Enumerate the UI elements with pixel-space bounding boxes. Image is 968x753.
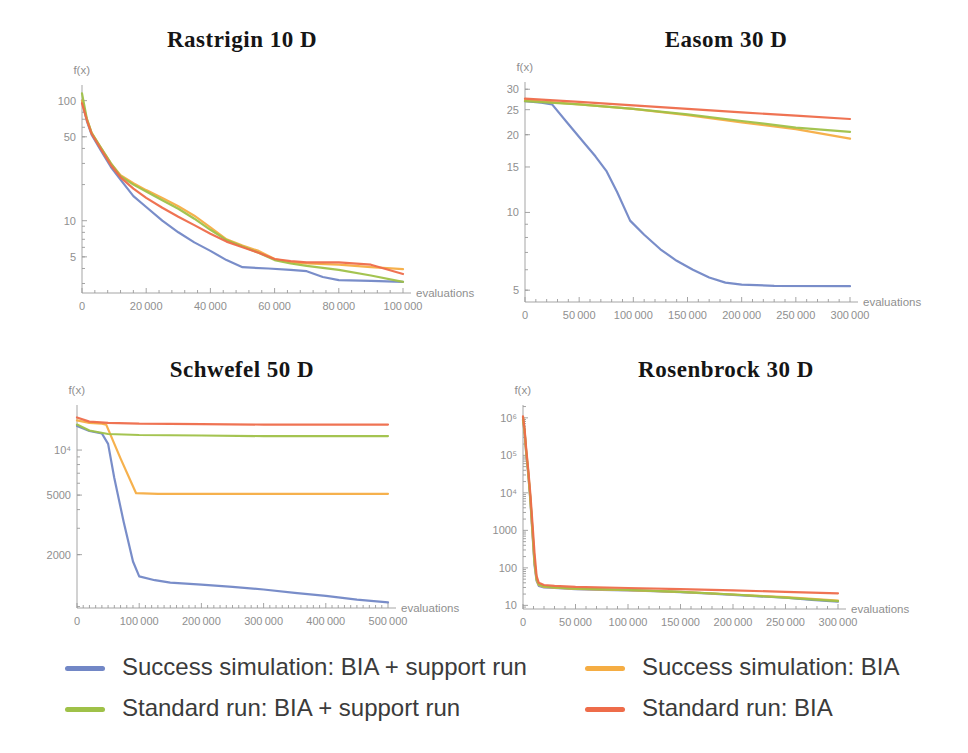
y-tick-label: 15	[507, 161, 519, 173]
y-tick-label: 10⁴	[54, 444, 71, 456]
x-tick-label: 0	[79, 300, 85, 312]
y-tick-label: 5	[513, 284, 519, 296]
y-tick-label: 5	[70, 251, 76, 263]
legend-item-success-bia: Success simulation: BIA	[585, 653, 899, 681]
series-line-green	[82, 93, 403, 281]
y-tick-label: 100	[499, 562, 517, 574]
x-tick-label: 300 000	[831, 309, 870, 321]
legend-item-standard-bia: Standard run: BIA	[585, 694, 899, 722]
series-line-red	[82, 103, 403, 274]
x-tick-label: 50 000	[563, 309, 596, 321]
chart-rastrigin: 10050105020 00040 00060 00080 000100 000…	[0, 0, 484, 330]
series-line-red	[523, 416, 838, 593]
x-tick-label: 40 000	[194, 300, 227, 312]
x-tick-label: 200 000	[722, 309, 761, 321]
legend-label: Standard run: BIA	[642, 694, 833, 722]
legend-swatch-orange	[585, 666, 625, 671]
chart-panel-schwefel: Schwefel 50 D 10⁴500020000100 000200 000…	[0, 330, 484, 652]
x-tick-label: 0	[522, 309, 528, 321]
legend-swatch-blue	[65, 666, 105, 671]
x-axis-label: evaluations	[416, 287, 474, 299]
series-line-green	[523, 417, 838, 601]
x-tick-label: 100 000	[120, 615, 159, 627]
x-tick-label: 100 000	[384, 300, 423, 312]
chart-panel-easom: Easom 30 D 30252015105050 000100 000150 …	[484, 0, 968, 330]
x-tick-label: 0	[520, 616, 526, 628]
chart-rosenbrock: 10⁶10⁵10⁴100010010050 000100 000150 0002…	[484, 330, 968, 652]
x-tick-label: 300 000	[244, 615, 283, 627]
series-line-orange	[525, 100, 850, 139]
x-tick-label: 250 000	[766, 616, 805, 628]
x-tick-label: 20 000	[130, 300, 163, 312]
y-tick-label: 5000	[47, 489, 71, 501]
y-tick-label: 10⁴	[500, 487, 517, 499]
chart-panel-rosenbrock: Rosenbrock 30 D 10⁶10⁵10⁴100010010050 00…	[484, 330, 968, 652]
x-tick-label: 200 000	[182, 615, 221, 627]
series-line-blue	[523, 420, 838, 602]
x-tick-label: 80 000	[322, 300, 355, 312]
y-axis-label: f(x)	[73, 64, 90, 76]
chart-schwefel: 10⁴500020000100 000200 000300 000400 000…	[0, 330, 484, 652]
legend-label: Standard run: BIA + support run	[122, 694, 460, 722]
legend-item-standard-bia-support: Standard run: BIA + support run	[65, 694, 585, 722]
series-line-green	[77, 425, 388, 437]
x-tick-label: 0	[74, 615, 80, 627]
legend-label: Success simulation: BIA + support run	[122, 653, 527, 681]
y-tick-label: 10⁵	[500, 449, 517, 461]
x-tick-label: 250 000	[776, 309, 815, 321]
y-tick-label: 20	[507, 129, 519, 141]
legend-item-success-bia-support: Success simulation: BIA + support run	[65, 653, 585, 681]
y-tick-label: 10⁶	[500, 412, 517, 424]
legend-swatch-green	[65, 707, 105, 712]
y-tick-label: 1000	[493, 524, 517, 536]
x-tick-label: 300 000	[819, 616, 858, 628]
chart-svg: 10050105020 00040 00060 00080 000100 000…	[0, 0, 484, 330]
x-tick-label: 500 000	[369, 615, 408, 627]
series-line-red	[77, 418, 388, 425]
y-tick-label: 25	[507, 104, 519, 116]
y-tick-label: 10	[507, 206, 519, 218]
legend-swatch-red	[585, 707, 625, 712]
chart-panel-rastrigin: Rastrigin 10 D 10050105020 00040 00060 0…	[0, 0, 484, 330]
series-line-blue	[82, 101, 403, 282]
y-axis-label: f(x)	[68, 384, 85, 396]
legend: Success simulation: BIA + support run St…	[65, 653, 899, 722]
chart-svg: 10⁶10⁵10⁴100010010050 000100 000150 0002…	[484, 330, 968, 652]
series-line-blue	[77, 426, 388, 602]
series-line-orange	[77, 420, 388, 494]
y-axis-label: f(x)	[514, 384, 531, 396]
series-line-orange	[523, 421, 838, 601]
chart-svg: 10⁴500020000100 000200 000300 000400 000…	[0, 330, 484, 652]
y-tick-label: 100	[58, 95, 76, 107]
x-tick-label: 200 000	[714, 616, 753, 628]
x-tick-label: 150 000	[661, 616, 700, 628]
x-tick-label: 50 000	[559, 616, 592, 628]
x-tick-label: 100 000	[614, 309, 653, 321]
y-tick-label: 50	[64, 131, 76, 143]
y-tick-label: 10	[64, 215, 76, 227]
y-tick-label: 30	[507, 83, 519, 95]
y-axis-label: f(x)	[516, 61, 533, 73]
x-tick-label: 60 000	[258, 300, 291, 312]
figure-benchmark-convergence: { "colors": { "blue": "#7287c6", "orange…	[0, 0, 968, 753]
x-tick-label: 150 000	[668, 309, 707, 321]
y-tick-label: 10	[505, 599, 517, 611]
legend-label: Success simulation: BIA	[642, 653, 899, 681]
x-tick-label: 100 000	[609, 616, 648, 628]
x-axis-label: evaluations	[401, 602, 459, 614]
x-tick-label: 400 000	[306, 615, 345, 627]
x-axis-label: evaluations	[863, 296, 921, 308]
chart-easom: 30252015105050 000100 000150 000200 0002…	[484, 0, 968, 330]
x-axis-label: evaluations	[851, 603, 909, 615]
y-tick-label: 2000	[47, 549, 71, 561]
chart-svg: 30252015105050 000100 000150 000200 0002…	[484, 0, 968, 330]
